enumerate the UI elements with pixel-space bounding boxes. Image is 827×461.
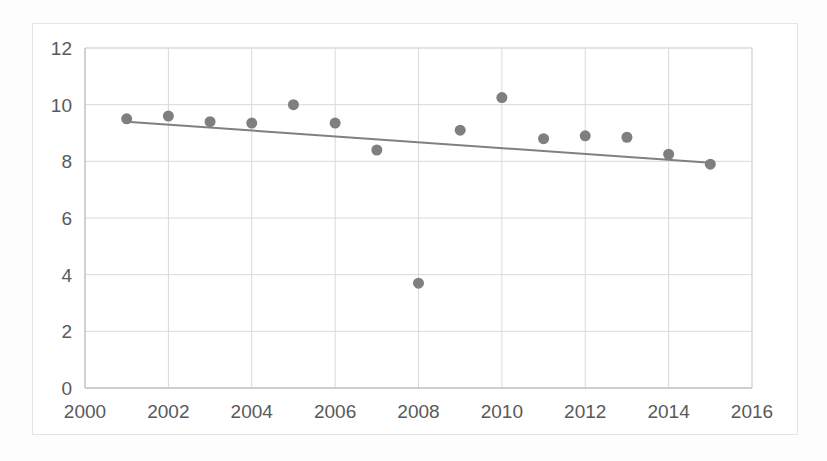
x-axis-tick-label: 2002 [147,401,189,422]
chart-figure: 024681012 200020022004200620082010201220… [0,0,827,461]
data-point-marker [538,133,549,144]
data-point-marker [413,278,424,289]
x-axis-tick-label: 2000 [64,401,106,422]
y-axis-tick-label: 4 [61,265,72,286]
y-axis-tick-label: 12 [51,38,72,59]
y-axis-tick-label: 8 [61,151,72,172]
x-axis-tick-label: 2010 [481,401,523,422]
y-axis-tick-label: 2 [61,321,72,342]
data-point-marker [371,145,382,156]
x-axis-tick-label: 2006 [314,401,356,422]
x-axis-tick-label: 2004 [231,401,274,422]
x-axis-tick-label: 2012 [564,401,606,422]
x-axis-tick-label: 2016 [731,401,773,422]
data-point-marker [580,130,591,141]
data-point-marker [288,99,299,110]
data-point-marker [705,159,716,170]
data-point-marker [455,125,466,136]
scatter-plot-canvas: 024681012 200020022004200620082010201220… [0,0,827,461]
data-point-marker [246,118,257,129]
x-axis-tick-label: 2008 [397,401,439,422]
data-point-marker [663,149,674,160]
y-axis-tick-label: 6 [61,208,72,229]
x-axis-tick-label: 2014 [647,401,690,422]
x-axis-tick-labels: 200020022004200620082010201220142016 [64,401,773,422]
data-point-marker [330,118,341,129]
y-axis-tick-labels: 024681012 [51,38,73,399]
y-axis-tick-label: 10 [51,95,72,116]
data-point-marker [163,111,174,122]
y-axis-tick-label: 0 [61,378,72,399]
data-point-marker [205,116,216,127]
data-point-marker [621,132,632,143]
data-point-marker [496,92,507,103]
data-point-marker [121,113,132,124]
